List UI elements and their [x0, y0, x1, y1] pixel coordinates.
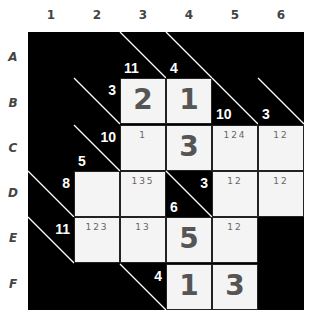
cell-e2[interactable]: 123 — [74, 217, 120, 263]
down-clue: 4 — [170, 60, 178, 76]
cell-c6[interactable]: 12 — [258, 125, 304, 171]
clue-cell-f3: 4 — [120, 264, 166, 310]
block-cell-a5 — [212, 32, 258, 78]
cell-value: 3 — [213, 269, 257, 302]
kakuro-grid: 1143211035101312412813563121211123135124… — [28, 32, 304, 310]
clue-cell-a4: 4 — [166, 32, 212, 78]
down-clue: 11 — [124, 60, 139, 76]
col-label-1: 1 — [28, 8, 74, 22]
across-clue: 8 — [62, 175, 70, 191]
across-clue: 3 — [108, 82, 116, 98]
row-label-e: E — [2, 231, 24, 245]
pencil-marks: 12 — [259, 176, 303, 186]
clue-cell-b2: 3 — [74, 78, 120, 124]
cell-value: 2 — [121, 83, 165, 116]
across-clue: 4 — [154, 268, 162, 284]
clue-cell-d1: 8 — [28, 171, 74, 217]
cell-b4[interactable]: 1 — [166, 78, 212, 124]
cell-d2[interactable] — [74, 171, 120, 217]
row-label-f: F — [2, 277, 24, 291]
clue-cell-b6: 3 — [258, 78, 304, 124]
cell-value: 3 — [167, 130, 211, 163]
down-clue: 6 — [170, 199, 178, 215]
cell-c4[interactable]: 3 — [166, 125, 212, 171]
cell-value: 1 — [167, 269, 211, 302]
block-cell-f6 — [258, 264, 304, 310]
row-label-b: B — [2, 96, 24, 110]
col-label-4: 4 — [166, 8, 212, 22]
block-cell-c1 — [28, 125, 74, 171]
cell-c5[interactable]: 124 — [212, 125, 258, 171]
col-label-6: 6 — [258, 8, 304, 22]
col-label-3: 3 — [120, 8, 166, 22]
cell-e4[interactable]: 5 — [166, 217, 212, 263]
cell-d5[interactable]: 12 — [212, 171, 258, 217]
block-cell-a6 — [258, 32, 304, 78]
cell-e3[interactable]: 13 — [120, 217, 166, 263]
cell-d3[interactable]: 135 — [120, 171, 166, 217]
across-clue: 10 — [100, 129, 116, 145]
col-label-5: 5 — [212, 8, 258, 22]
across-clue: 11 — [55, 221, 70, 237]
clue-cell-a3: 11 — [120, 32, 166, 78]
cell-c3[interactable]: 1 — [120, 125, 166, 171]
clue-cell-c2: 510 — [74, 125, 120, 171]
col-label-2: 2 — [74, 8, 120, 22]
pencil-marks: 1 — [121, 130, 165, 140]
cell-value: 5 — [167, 222, 211, 255]
row-label-c: C — [2, 141, 24, 155]
pencil-marks: 12 — [259, 130, 303, 140]
clue-cell-e1: 11 — [28, 217, 74, 263]
block-cell-a2 — [74, 32, 120, 78]
down-clue: 5 — [78, 153, 86, 169]
pencil-marks: 124 — [213, 130, 257, 140]
pencil-marks: 12 — [213, 176, 257, 186]
pencil-marks: 12 — [213, 222, 257, 232]
cell-e5[interactable]: 12 — [212, 217, 258, 263]
pencil-marks: 123 — [75, 222, 119, 232]
cell-f4[interactable]: 1 — [166, 264, 212, 310]
pencil-marks: 135 — [121, 176, 165, 186]
block-cell-a1 — [28, 32, 74, 78]
block-cell-e6 — [258, 217, 304, 263]
cell-d6[interactable]: 12 — [258, 171, 304, 217]
block-cell-f1 — [28, 264, 74, 310]
pencil-marks: 13 — [121, 222, 165, 232]
row-label-a: A — [2, 50, 24, 64]
block-cell-f2 — [74, 264, 120, 310]
cell-b3[interactable]: 2 — [120, 78, 166, 124]
cell-f5[interactable]: 3 — [212, 264, 258, 310]
across-clue: 3 — [200, 175, 208, 191]
clue-cell-d4: 63 — [166, 171, 212, 217]
cell-value: 1 — [167, 83, 211, 116]
clue-cell-b5: 10 — [212, 78, 258, 124]
row-label-d: D — [2, 186, 24, 200]
down-clue: 3 — [262, 106, 270, 122]
block-cell-b1 — [28, 78, 74, 124]
down-clue: 10 — [216, 106, 232, 122]
